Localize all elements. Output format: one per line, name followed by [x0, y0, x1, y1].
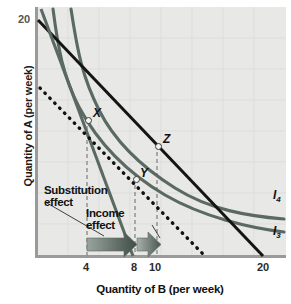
- income-line2: effect: [86, 220, 124, 232]
- curves-layer: [0, 0, 291, 304]
- curve-label-i3-sub: 3: [276, 231, 280, 240]
- annotation-income-effect: Income effect: [86, 208, 124, 231]
- annotation-substitution-effect: Substitution effect: [44, 185, 107, 208]
- x-tick-label-10: 10: [149, 261, 161, 273]
- data-point-z: [155, 143, 162, 150]
- substitution-effect-arrow: [87, 232, 137, 257]
- chart-figure: X Z Y I4 I3 Substitution effect Income e…: [0, 0, 291, 304]
- substitution-line1: Substitution: [44, 185, 107, 197]
- data-point-x: [85, 117, 92, 124]
- x-axis-title: Quantity of B (per week): [40, 283, 280, 295]
- curve-label-i4: I4: [273, 188, 281, 204]
- income-line1: Income: [86, 208, 124, 220]
- budget-line-original: [38, 20, 263, 256]
- x-tick-label-4: 4: [83, 261, 89, 273]
- y-tick-label-20: 20: [18, 13, 30, 25]
- x-tick-label-20: 20: [257, 261, 269, 273]
- x-tick-label-8: 8: [131, 261, 137, 273]
- label-point-y: Y: [140, 166, 148, 180]
- data-point-y: [133, 176, 140, 183]
- curve-label-i3: I3: [273, 224, 281, 240]
- y-axis-title: Quantity of A (per week): [22, 46, 34, 206]
- label-point-z: Z: [163, 132, 170, 146]
- label-point-x: X: [93, 106, 101, 120]
- curve-label-i4-sub: 4: [276, 195, 280, 204]
